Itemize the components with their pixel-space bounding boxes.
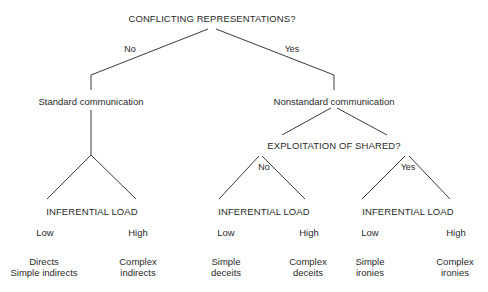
exploit-no-label: No xyxy=(258,162,270,173)
irony-low-outcome-1: Simple xyxy=(355,256,384,267)
nonstandard-communication-node: Nonstandard communication xyxy=(274,96,395,107)
standard-high-outcome-1: Complex xyxy=(119,256,157,267)
irony-low-label: Low xyxy=(361,227,378,238)
irony-high-outcome-2: ironies xyxy=(441,267,469,278)
edge-nonstandard-right xyxy=(337,108,387,135)
deceit-inferential-load: INFERENTIAL LOAD xyxy=(218,206,310,217)
standard-high-outcome-2: indirects xyxy=(120,267,155,278)
root-yes-label: Yes xyxy=(285,44,300,55)
exploit-yes-label: Yes xyxy=(401,162,416,173)
edge-standard-right xyxy=(91,155,136,199)
standard-low-label: Low xyxy=(36,227,53,238)
deceit-high-label: High xyxy=(299,227,319,238)
root-no-label: No xyxy=(124,44,136,55)
standard-high-label: High xyxy=(128,227,148,238)
deceit-low-outcome-2: deceits xyxy=(211,267,241,278)
standard-low-outcome-1: Directs xyxy=(29,256,59,267)
standard-communication-node: Standard communication xyxy=(38,96,143,107)
standard-inferential-load: INFERENTIAL LOAD xyxy=(46,206,138,217)
deceit-high-outcome-1: Complex xyxy=(289,256,327,267)
deceit-low-label: Low xyxy=(217,227,234,238)
irony-inferential-load: INFERENTIAL LOAD xyxy=(362,206,454,217)
edge-root-yes xyxy=(216,29,334,90)
edge-standard-left xyxy=(47,155,91,199)
decision-tree-diagram: CONFLICTING REPRESENTATIONS? No Yes Stan… xyxy=(0,0,488,292)
exploitation-question: EXPLOITATION OF SHARED? xyxy=(267,140,400,151)
edge-exploit-yes-left xyxy=(362,156,405,199)
deceit-low-outcome-1: Simple xyxy=(211,256,240,267)
edge-exploit-no-left xyxy=(219,156,259,199)
edge-root-no xyxy=(91,29,208,90)
irony-high-label: High xyxy=(446,227,466,238)
irony-high-outcome-1: Complex xyxy=(436,256,474,267)
irony-low-outcome-2: ironies xyxy=(356,267,384,278)
root-question: CONFLICTING REPRESENTATIONS? xyxy=(128,13,295,24)
standard-low-outcome-2: Simple indirects xyxy=(10,267,77,278)
edge-nonstandard-left xyxy=(282,108,331,135)
tree-edges xyxy=(0,0,488,292)
deceit-high-outcome-2: deceits xyxy=(293,267,323,278)
